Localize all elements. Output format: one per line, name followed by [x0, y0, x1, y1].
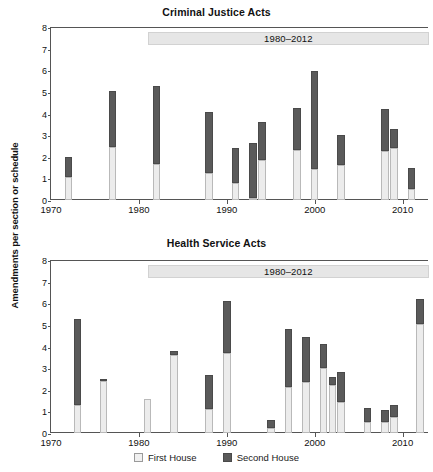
chart-title-health-service: Health Service Acts: [0, 237, 433, 249]
bar-segment-second-house: [205, 375, 213, 410]
y-tick-label: 7: [25, 278, 47, 288]
period-band-label: 1980–2012: [264, 33, 312, 44]
bar-stack: [223, 301, 231, 433]
bar-segment-second-house: [408, 168, 416, 190]
y-tick-label: 1: [25, 174, 47, 184]
bar-segment-first-house: [320, 368, 328, 433]
bar-segment-second-house: [302, 337, 310, 382]
legend-item-second-house: Second House: [223, 452, 299, 463]
bar-stack: [232, 148, 240, 200]
y-tick-mark: [48, 201, 51, 202]
bar-segment-first-house: [100, 381, 108, 433]
y-tick-label: 4: [25, 343, 47, 353]
y-tick-mark: [48, 304, 51, 305]
bar-segment-second-house: [170, 351, 178, 355]
y-tick-label: 8: [25, 256, 47, 266]
x-tick-label: 1990: [207, 437, 247, 448]
bar-segment-first-house: [293, 150, 301, 200]
bar-segment-second-house: [109, 91, 117, 147]
bar-segment-second-house: [320, 344, 328, 368]
bar-segment-first-house: [153, 164, 161, 200]
bar-segment-first-house: [205, 409, 213, 433]
bar-segment-second-house: [100, 379, 108, 381]
y-tick-mark: [48, 28, 51, 29]
x-tick-mark: [227, 433, 228, 437]
bar-segment-first-house: [144, 399, 152, 433]
y-tick-mark: [48, 136, 51, 137]
bar-stack: [293, 108, 301, 200]
x-tick-label: 1980: [119, 204, 159, 215]
y-tick-label: 2: [25, 153, 47, 163]
bar-stack: [390, 129, 398, 200]
legend: First House Second House: [0, 452, 433, 463]
y-tick-label: 6: [25, 66, 47, 76]
bar-stack: [109, 91, 117, 200]
x-tick-label: 1970: [31, 204, 71, 215]
bar-segment-second-house: [232, 148, 240, 183]
bar-segment-second-house: [65, 157, 73, 178]
bar-stack: [205, 112, 213, 200]
bar-segment-first-house: [65, 177, 73, 200]
bar-stack: [329, 377, 337, 433]
bar-segment-second-house: [337, 372, 345, 401]
bar-segment-first-house: [408, 189, 416, 200]
bar-segment-second-house: [337, 135, 345, 165]
bar-stack: [144, 399, 152, 433]
x-tick-mark: [227, 200, 228, 204]
y-tick-mark: [48, 71, 51, 72]
y-tick-mark: [48, 326, 51, 327]
y-tick-label: 8: [25, 23, 47, 33]
y-tick-label: 1: [25, 407, 47, 417]
bar-segment-second-house: [381, 109, 389, 151]
y-tick-label: 5: [25, 321, 47, 331]
legend-swatch-second-house-icon: [223, 453, 232, 462]
x-tick-mark: [139, 433, 140, 437]
x-tick-label: 1990: [207, 204, 247, 215]
x-tick-label: 2000: [295, 437, 335, 448]
bar-segment-first-house: [109, 147, 117, 200]
bar-segment-first-house: [416, 324, 424, 433]
y-tick-label: 2: [25, 386, 47, 396]
legend-label-second-house: Second House: [237, 452, 299, 463]
bar-segment-second-house: [74, 319, 82, 404]
bar-stack: [364, 408, 372, 433]
x-tick-label: 2000: [295, 204, 335, 215]
x-tick-mark: [403, 433, 404, 437]
bar-stack: [100, 379, 108, 433]
y-tick-mark: [48, 261, 51, 262]
bar-stack: [408, 168, 416, 200]
y-tick-mark: [48, 158, 51, 159]
plot-area-criminal-justice: 012345678197019801990200020101980–2012: [50, 27, 428, 200]
x-tick-label: 2010: [383, 204, 423, 215]
bar-segment-second-house: [329, 377, 337, 386]
x-tick-mark: [139, 200, 140, 204]
plot-area-health-service: 012345678197019801990200020101980–2012: [50, 260, 428, 433]
legend-item-first-house: First House: [134, 452, 197, 463]
y-tick-mark: [48, 391, 51, 392]
bar-segment-first-house: [267, 428, 275, 433]
bar-segment-second-house: [249, 143, 257, 198]
bar-segment-first-house: [302, 382, 310, 433]
bar-segment-first-house: [329, 385, 337, 433]
bar-segment-second-house: [293, 108, 301, 150]
bar-stack: [337, 135, 345, 200]
bar-segment-second-house: [381, 410, 389, 422]
bar-segment-first-house: [337, 402, 345, 433]
legend-label-first-house: First House: [148, 452, 197, 463]
chart-title-criminal-justice: Criminal Justice Acts: [0, 6, 433, 18]
period-band: 1980–2012: [148, 32, 429, 45]
bar-stack: [249, 143, 257, 200]
legend-swatch-first-house-icon: [134, 453, 143, 462]
bar-stack: [337, 372, 345, 433]
bar-segment-first-house: [223, 353, 231, 433]
bar-stack: [416, 299, 424, 433]
x-tick-mark: [403, 200, 404, 204]
bar-stack: [153, 86, 161, 200]
bar-stack: [74, 319, 82, 433]
bar-segment-second-house: [390, 129, 398, 148]
x-axis-line-bottom: [51, 432, 428, 433]
panel-health-service: Health Service Acts 01234567819701980199…: [0, 236, 433, 458]
period-band-label: 1980–2012: [264, 266, 312, 277]
y-tick-mark: [48, 179, 51, 180]
y-tick-mark: [48, 412, 51, 413]
